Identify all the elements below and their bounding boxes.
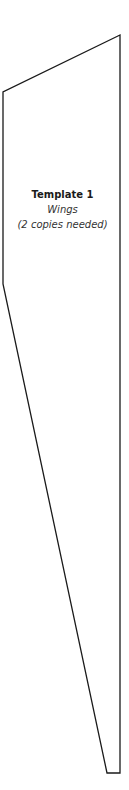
template-part-name: Wings	[0, 204, 125, 215]
template-title: Template 1	[0, 189, 125, 200]
copies-note: (2 copies needed)	[0, 219, 125, 230]
wing-template-outline	[0, 0, 129, 790]
